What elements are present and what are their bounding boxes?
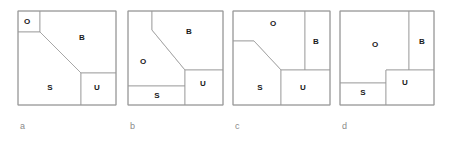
panel-a-label-u: U [94,83,100,92]
panel-a-label-s: S [47,83,53,92]
panel-c: OBSU [233,11,330,105]
panel-c-label-o: O [270,19,276,28]
partition-diagram: OBSUBOSUOBSUOBSU [0,0,456,143]
panel-d-label-o: O [372,40,378,49]
panel-d: OBSU [340,11,434,105]
panel-c-label-b: B [313,37,319,46]
panel-a-label-b: B [79,33,85,42]
panel-b-caption: b [130,122,135,131]
panel-d-label-s: S [360,88,366,97]
panel-c-label-u: U [300,83,306,92]
panel-b-label-b: B [186,27,192,36]
panel-a-label-o: O [24,17,30,26]
panel-d-label-b: B [419,37,425,46]
panel-d-label-u: U [402,78,408,87]
panel-b-label-u: U [200,79,206,88]
panel-d-region-u [386,70,434,105]
panel-c-label-s: S [257,83,263,92]
panel-b-label-s: S [154,91,160,100]
panel-b-label-o: O [140,57,146,66]
figure-container: OBSUBOSUOBSUOBSUabcd [0,0,456,143]
panel-a: OBSU [18,11,116,105]
panel-d-caption: d [342,122,347,131]
panel-c-caption: c [235,122,240,131]
panel-a-caption: a [20,122,25,131]
panel-b: BOSU [128,11,223,105]
